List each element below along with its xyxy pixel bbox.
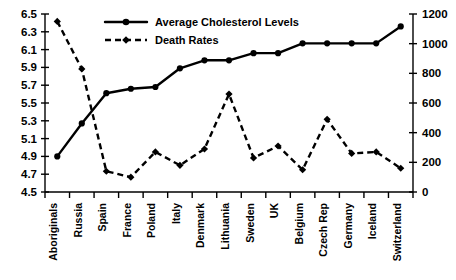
- left-axis-tick-label: 5.7: [21, 79, 37, 91]
- category-label-belgium: Belgium: [293, 203, 305, 244]
- left-axis-tick-label: 6.1: [21, 44, 38, 56]
- right-axis-tick-label: 200: [422, 156, 441, 168]
- category-label-italy: Italy: [170, 203, 182, 224]
- data-point-average-cholesterol-levels: [152, 84, 158, 90]
- data-point-death-rates: [225, 91, 232, 98]
- right-axis-tick-label: 1200: [422, 8, 448, 20]
- category-label-lithuania: Lithuania: [219, 203, 231, 250]
- category-label-aboriginals: Aboriginals: [47, 203, 59, 261]
- data-point-average-cholesterol-levels: [79, 120, 85, 126]
- left-axis-tick-label: 6.3: [21, 26, 37, 38]
- left-axis: 4.54.74.95.15.35.55.75.96.16.36.5: [21, 8, 49, 198]
- data-point-average-cholesterol-levels: [201, 57, 207, 63]
- series-plot-area: [54, 18, 405, 181]
- data-point-average-cholesterol-levels: [300, 40, 306, 46]
- legend-marker-death-rates: [122, 36, 130, 44]
- right-axis-tick-label: 1000: [422, 38, 448, 50]
- legend-item-average-cholesterol-levels: Average Cholesterol Levels: [105, 16, 299, 28]
- data-point-average-cholesterol-levels: [226, 57, 232, 63]
- left-axis-tick-label: 6.5: [21, 8, 38, 20]
- left-axis-tick-label: 5.1: [21, 133, 38, 145]
- legend-label-average-cholesterol-levels: Average Cholesterol Levels: [155, 16, 299, 28]
- data-point-average-cholesterol-levels: [103, 90, 109, 96]
- left-axis-tick-label: 4.7: [21, 168, 37, 180]
- left-axis-tick-label: 5.5: [21, 97, 38, 109]
- right-axis-tick-label: 800: [422, 67, 441, 79]
- bottom-axis: [45, 192, 413, 198]
- right-axis: 020040060080010001200: [409, 8, 448, 198]
- data-point-average-cholesterol-levels: [177, 65, 183, 71]
- data-point-average-cholesterol-levels: [349, 40, 355, 46]
- data-point-average-cholesterol-levels: [54, 153, 60, 159]
- category-label-russia: Russia: [72, 203, 84, 238]
- data-point-average-cholesterol-levels: [250, 50, 256, 56]
- category-label-czech-rep: Czech Rep: [317, 203, 329, 257]
- legend-marker-average-cholesterol-levels: [123, 19, 130, 26]
- category-label-iceland: Iceland: [366, 203, 378, 239]
- right-axis-tick-label: 0: [422, 186, 428, 198]
- category-label-sweden: Sweden: [244, 203, 256, 243]
- left-axis-tick-label: 4.5: [21, 186, 38, 198]
- chart-legend: Average Cholesterol LevelsDeath Rates: [105, 16, 299, 46]
- left-axis-tick-label: 4.9: [21, 150, 37, 162]
- data-point-death-rates: [127, 174, 134, 181]
- category-axis-labels: AboriginalsRussiaSpainFrancePolandItalyD…: [47, 203, 402, 262]
- category-label-spain: Spain: [96, 203, 108, 232]
- data-point-average-cholesterol-levels: [398, 23, 404, 29]
- legend-item-death-rates: Death Rates: [105, 34, 219, 46]
- category-label-germany: Germany: [342, 203, 354, 249]
- category-label-denmark: Denmark: [194, 203, 206, 248]
- category-label-france: France: [121, 203, 133, 238]
- data-point-average-cholesterol-levels: [128, 86, 134, 92]
- cholesterol-death-rate-line-chart: 4.54.74.95.15.35.55.75.96.16.36.5 020040…: [0, 0, 456, 280]
- legend-label-death-rates: Death Rates: [155, 34, 219, 46]
- data-point-death-rates: [103, 168, 110, 175]
- data-point-average-cholesterol-levels: [275, 50, 281, 56]
- data-point-average-cholesterol-levels: [373, 40, 379, 46]
- data-point-death-rates: [250, 154, 257, 161]
- chart-container: 4.54.74.95.15.35.55.75.96.16.36.5 020040…: [0, 0, 456, 280]
- right-axis-tick-label: 600: [422, 97, 441, 109]
- left-axis-tick-label: 5.9: [21, 61, 37, 73]
- category-label-poland: Poland: [145, 203, 157, 238]
- category-label-uk: UK: [268, 203, 280, 219]
- right-axis-tick-label: 400: [422, 127, 441, 139]
- category-label-switzerland: Switzerland: [391, 203, 403, 261]
- left-axis-tick-label: 5.3: [21, 115, 37, 127]
- data-point-average-cholesterol-levels: [324, 40, 330, 46]
